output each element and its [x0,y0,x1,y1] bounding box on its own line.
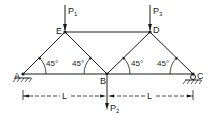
joint-D [148,30,151,33]
joint-A [21,72,24,75]
load-label-P3: P3 [153,6,163,17]
angle-arc-A [39,58,46,74]
node-label-A: A [14,71,20,81]
member-AE [23,32,65,74]
dim-arrowhead [108,95,114,98]
load-label-P2: P2 [110,103,120,114]
truss-diagram: A B C D E P1 P3 P2 45° 45° 45° 45° L L [0,0,215,122]
dim-arrowhead [100,95,106,98]
angle-arc-B-right [123,58,130,74]
angle-label: 45° [131,59,143,68]
member-BD [107,32,150,74]
angle-label: 45° [157,59,169,68]
arrowhead-P3 [148,24,152,31]
dim-arrowhead [23,95,29,98]
angle-label: 45° [72,59,84,68]
joint-E [63,30,66,33]
angle-arc-C [170,58,177,74]
dimension-lines [23,90,193,100]
node-label-D: D [153,25,160,35]
angle-label: 45° [46,59,58,68]
dim-arrowhead [187,95,193,98]
arrowhead-P1 [63,24,67,31]
arrowhead-P2 [105,103,109,110]
joint-C [191,72,194,75]
dimension-label-L: L [62,91,67,101]
node-label-C: C [197,71,204,81]
load-label-P1: P1 [68,6,78,17]
angle-arc-B-left [84,58,91,74]
node-label-B: B [100,76,106,86]
node-label-E: E [56,26,62,36]
dimension-label-L: L [147,91,152,101]
